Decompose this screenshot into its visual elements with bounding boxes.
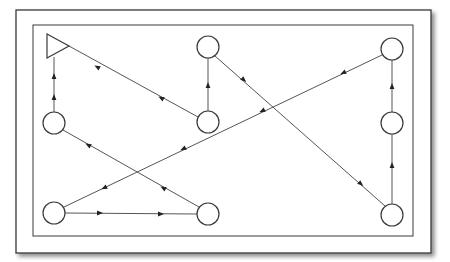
outer-frame — [16, 10, 431, 253]
node-center-mid[interactable] — [197, 111, 219, 133]
node-left-mid[interactable] — [43, 112, 65, 134]
node-top-mid[interactable] — [197, 36, 219, 58]
node-bottom-right[interactable] — [381, 204, 403, 226]
node-right-mid[interactable] — [381, 112, 403, 134]
flow-diagram — [0, 0, 450, 262]
node-bottom-mid[interactable] — [197, 203, 219, 225]
node-bottom-left[interactable] — [43, 202, 65, 224]
node-top-right[interactable] — [381, 38, 403, 60]
